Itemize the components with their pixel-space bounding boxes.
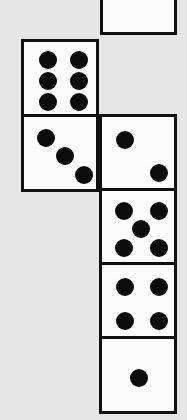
pip [116,278,134,296]
pip [115,202,133,220]
pip [39,72,57,90]
pip [150,278,168,296]
die-six [21,39,99,117]
pip [75,166,93,184]
die-four [99,262,177,340]
die-three [21,114,99,192]
pip [150,202,168,220]
pip [39,51,57,69]
die-top-partial [100,0,177,35]
pip [150,312,168,330]
die-five [99,188,177,266]
pip [37,129,55,147]
pip [132,220,150,238]
pip [70,51,88,69]
pip [70,72,88,90]
dice-scene [0,0,187,420]
pip [115,239,133,257]
pip [56,147,74,165]
pip [116,131,134,149]
pip [39,93,57,111]
pip [150,239,168,257]
die-two [99,114,177,192]
pip [130,369,148,387]
pip [150,164,168,182]
pip [116,312,134,330]
pip [70,93,88,111]
die-one [99,336,177,414]
